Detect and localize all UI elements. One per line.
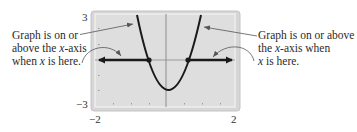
annotation-left-line1: Graph is on or	[12, 29, 87, 42]
annotation-right-line2: the x-axis when	[258, 42, 354, 55]
annotation-right: Graph is on or above the x-axis when x i…	[258, 29, 354, 68]
annotation-left-line2: above the x-axis	[12, 42, 87, 55]
annotation-left-line3: when x is here.	[12, 55, 87, 68]
x-intercept-left	[146, 57, 151, 62]
xmax-label: 2	[231, 113, 237, 125]
annotation-left: Graph is on or above the x-axis when x i…	[12, 29, 87, 68]
annotation-right-line1: Graph is on or above	[258, 29, 354, 42]
xmin-label: −2	[89, 113, 101, 125]
ymin-label: −3	[76, 98, 88, 110]
annotation-right-line3: x is here.	[258, 55, 354, 68]
x-intercept-right	[185, 57, 190, 62]
ymax-label: 3	[82, 11, 88, 23]
